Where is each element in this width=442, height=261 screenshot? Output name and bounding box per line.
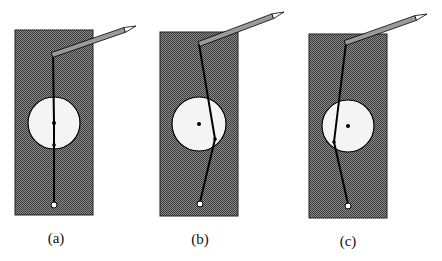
pencil-tip [415,14,427,20]
pencil-icon [198,12,284,46]
panel-a [15,26,136,215]
center-dot [346,124,350,128]
knot-dot [52,143,56,147]
anchor-pin [345,203,351,209]
knot-dot [332,140,336,144]
panel-c [309,14,427,218]
panel-label-c: (c) [340,233,357,250]
panel-b [160,12,284,216]
center-dot [52,121,56,125]
knot-dot [213,137,217,141]
anchor-pin [51,202,57,208]
pencil-tip [124,26,136,32]
diagram-canvas [0,0,442,261]
anchor-pin [197,201,203,207]
center-dot [197,122,201,126]
panel-label-a: (a) [48,230,65,247]
pencil-tip [272,12,284,19]
panel-label-b: (b) [191,231,209,248]
string-path [53,55,54,203]
